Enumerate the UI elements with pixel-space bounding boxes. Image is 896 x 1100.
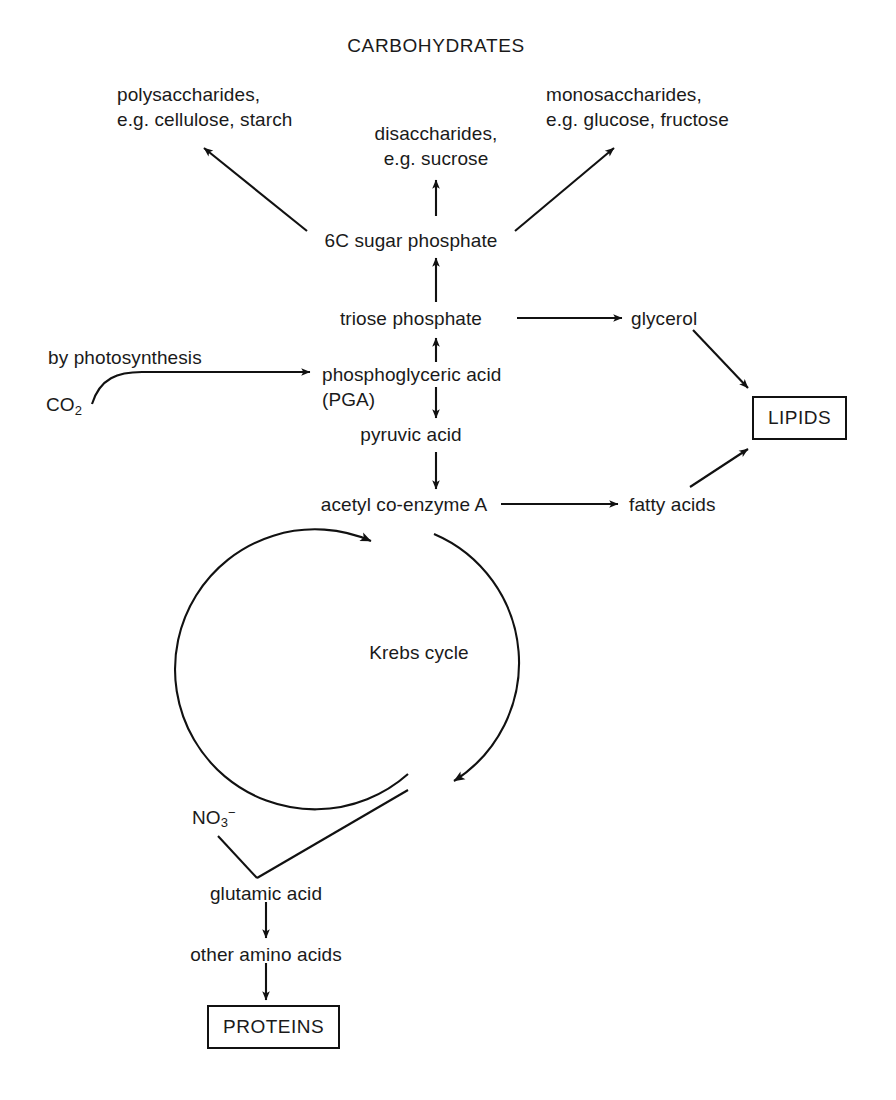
node-proteins-box: PROTEINS xyxy=(207,1005,340,1049)
edge-6c-to-polysaccharides xyxy=(204,148,307,231)
node-krebs-cycle: Krebs cycle xyxy=(369,640,468,665)
monosaccharides-line-2: e.g. glucose, fructose xyxy=(546,109,729,130)
nitrate-label: NO xyxy=(192,807,221,828)
node-glycerol: glycerol xyxy=(631,306,697,331)
co2-label: CO xyxy=(46,394,75,415)
node-glutamic-acid: glutamic acid xyxy=(210,881,322,906)
polysaccharides-line-2: e.g. cellulose, starch xyxy=(117,109,292,130)
edge-krebs-to-glutamic xyxy=(257,790,408,878)
polysaccharides-line-1: polysaccharides, xyxy=(117,84,260,105)
pga-line-1: phosphoglyceric acid xyxy=(322,364,501,385)
node-fatty-acids: fatty acids xyxy=(629,492,716,517)
nitrate-subscript: 3 xyxy=(221,815,228,830)
edge-nitrate-to-glutamic xyxy=(218,836,257,878)
co2-subscript: 2 xyxy=(75,403,82,418)
monosaccharides-line-1: monosaccharides, xyxy=(546,84,702,105)
metabolic-pathway-diagram: CARBOHYDRATES polysaccharides,e.g. cellu… xyxy=(0,0,896,1100)
edge-6c-to-monosaccharides xyxy=(515,148,614,231)
page-title: CARBOHYDRATES xyxy=(347,33,524,58)
node-monosaccharides: monosaccharides,e.g. glucose, fructose xyxy=(546,82,729,132)
node-pyruvic-acid: pyruvic acid xyxy=(360,422,462,447)
node-acetyl-coenzyme-a: acetyl co-enzyme A xyxy=(321,492,488,517)
node-lipids-box: LIPIDS xyxy=(752,396,847,440)
edge-co2-to-pga xyxy=(92,372,310,404)
node-nitrate: NO3− xyxy=(192,800,236,835)
disaccharides-line-2: e.g. sucrose xyxy=(384,148,489,169)
pga-line-2: (PGA) xyxy=(322,389,375,410)
node-phosphoglyceric-acid: phosphoglyceric acid(PGA) xyxy=(322,362,501,412)
node-disaccharides: disaccharides,e.g. sucrose xyxy=(375,121,498,171)
node-other-amino-acids: other amino acids xyxy=(190,942,342,967)
label-by-photosynthesis: by photosynthesis xyxy=(48,345,202,370)
node-triose-phosphate: triose phosphate xyxy=(340,306,482,331)
node-co2: CO2 xyxy=(46,392,82,423)
node-polysaccharides: polysaccharides,e.g. cellulose, starch xyxy=(117,82,292,132)
edge-glycerol-to-lipids xyxy=(693,330,748,388)
edge-fatty-acids-to-lipids xyxy=(690,449,748,487)
nitrate-charge-superscript: − xyxy=(228,805,236,820)
node-6c-sugar-phosphate: 6C sugar phosphate xyxy=(325,228,498,253)
krebs-cycle-arc-left xyxy=(175,529,408,809)
disaccharides-line-1: disaccharides, xyxy=(375,123,498,144)
